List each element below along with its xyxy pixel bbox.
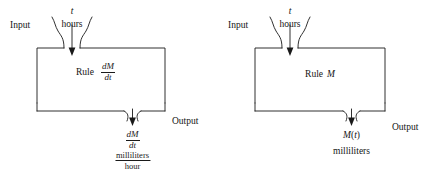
right-input-label: Input	[228, 21, 248, 31]
right-output-label: Output	[392, 123, 418, 133]
right-rule-text: RuleM	[305, 70, 335, 80]
left-output-units-numerator: milliliters	[115, 151, 150, 161]
left-output-expression-denominator: dt	[126, 141, 140, 151]
right-rule-box	[255, 48, 385, 111]
right-output-arrow	[348, 109, 355, 126]
left-rule-word: Rule	[76, 68, 94, 78]
right-output-expression-argument: t	[354, 130, 357, 140]
right-rule-expression: M	[327, 69, 335, 79]
left-input-label: Input	[10, 21, 30, 31]
left-input-arrow	[69, 25, 76, 56]
left-output-expression: dM dt	[126, 130, 140, 150]
right-input-variable: t	[289, 7, 292, 17]
right-output-units: milliliters	[333, 147, 370, 157]
right-input-units: hours	[279, 20, 300, 30]
left-rule-expression-numerator: dM	[101, 62, 115, 73]
left-input-variable: t	[71, 7, 74, 17]
left-rule-expression-denominator: dt	[101, 73, 115, 83]
right-rule-word: Rule	[305, 69, 323, 79]
left-output-arrow	[129, 109, 136, 126]
left-rule-expression: dM dt	[101, 62, 115, 82]
left-output-expression-numerator: dM	[126, 130, 140, 141]
right-output-expression: M(t)	[343, 131, 360, 141]
right-input-arrow	[287, 25, 294, 56]
right-output-expression-function: M	[343, 130, 351, 140]
left-output-label: Output	[172, 117, 198, 127]
left-output-units-denominator: hour	[115, 161, 150, 170]
left-output-units: milliliters hour	[115, 151, 150, 170]
left-input-units: hours	[61, 20, 82, 30]
